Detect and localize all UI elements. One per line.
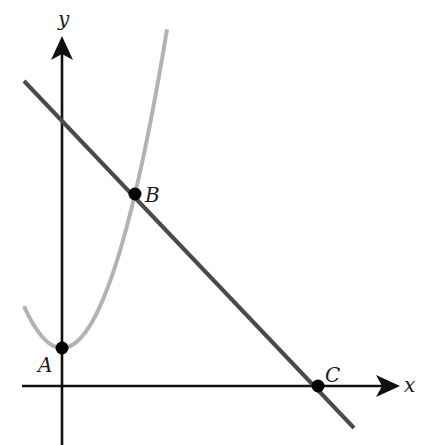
straight-line: [24, 81, 354, 428]
y-axis-label: y: [57, 7, 70, 31]
point-c-label: C: [325, 363, 340, 387]
coordinate-diagram: y x A B C: [0, 0, 438, 445]
point-c: [312, 380, 325, 393]
x-axis-label: x: [404, 373, 415, 397]
point-a: [56, 342, 69, 355]
point-b-label: B: [144, 183, 160, 207]
point-a-label: A: [36, 353, 52, 377]
point-b: [129, 188, 142, 201]
